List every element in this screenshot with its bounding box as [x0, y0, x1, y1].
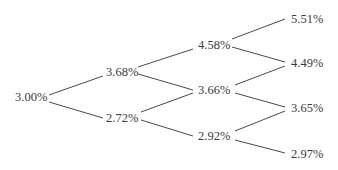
edge-1-0-to-2-1: [138, 74, 193, 90]
node-label: 2.92%: [198, 129, 230, 143]
node-label: 4.58%: [198, 38, 230, 52]
node-label: 2.97%: [291, 147, 323, 161]
edge-2-0-to-3-0: [232, 19, 285, 39]
edge-1-1-to-2-2: [141, 120, 193, 136]
node-label: 3.68%: [106, 65, 138, 79]
node-label: 5.51%: [291, 12, 323, 26]
edge-0-0-to-1-0: [49, 76, 103, 95]
node-label: 3.00%: [15, 90, 47, 104]
edge-1-1-to-2-1: [141, 93, 193, 112]
node-label: 2.72%: [106, 111, 138, 125]
edge-2-1-to-3-2: [235, 93, 285, 107]
edge-0-0-to-1-1: [49, 102, 103, 118]
node-label: 4.49%: [291, 56, 323, 70]
binomial-tree-diagram: 3.00% 3.68% 2.72% 4.58% 3.66% 2.92% 5.51…: [0, 0, 338, 170]
edge-2-2-to-3-3: [235, 140, 285, 153]
node-label: 3.66%: [198, 83, 230, 97]
edge-2-1-to-3-1: [235, 66, 285, 85]
node-label: 3.65%: [291, 101, 323, 115]
edge-1-0-to-2-0: [138, 49, 193, 67]
edge-2-0-to-3-1: [232, 47, 285, 62]
edge-2-2-to-3-2: [235, 111, 285, 131]
